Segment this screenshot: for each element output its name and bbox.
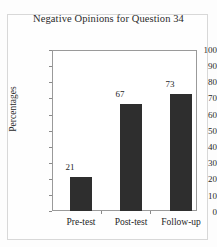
bar-value-label-pre-test: 21 [55,162,85,172]
x-tick-mark [101,211,102,214]
chart-screenshot: Negative Opinions for Question 34 Percen… [0,0,217,247]
x-tick-mark [150,211,151,214]
plot-area [53,51,197,211]
chart-title: Negative Opinions for Question 34 [10,13,207,24]
bar-value-label-post-test: 67 [105,89,135,99]
y-axis-label: Percentages [8,64,18,154]
bar-value-label-follow-up: 73 [155,79,185,89]
bar-follow-up [170,94,192,211]
y-tick-mark [49,211,52,212]
bar-post-test [120,104,142,211]
bar-pre-test [70,177,92,211]
x-tick-label-follow-up: Follow-up [149,217,213,227]
